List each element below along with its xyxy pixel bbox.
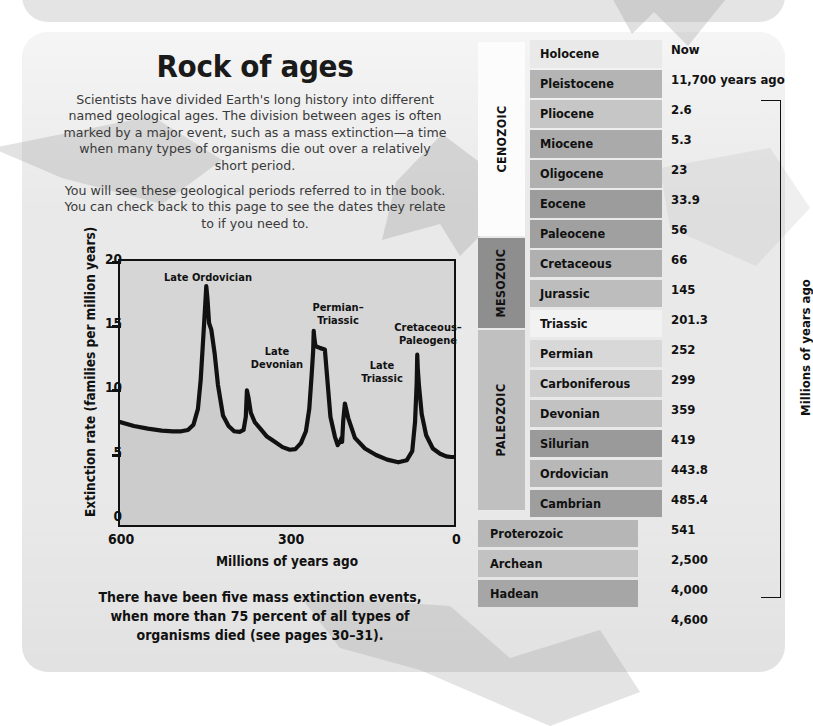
period-row-pliocene[interactable]: Pliocene (530, 100, 662, 128)
period-row-holocene[interactable]: Holocene (530, 40, 662, 68)
geologic-time-scale: CENOZOICMESOZOICPALEOZOIC HolocenePleist… (478, 40, 778, 640)
chart-ytick-mark-10 (112, 389, 121, 392)
period-label: Proterozoic (490, 526, 563, 541)
chart-ytick-0: 0 (82, 508, 122, 524)
chart-annotation-late-triassic: Late Triassic (346, 359, 418, 385)
era-label: CENOZOIC (495, 105, 509, 172)
chart-curve (120, 261, 454, 525)
period-row-pleistocene[interactable]: Pleistocene (530, 70, 662, 98)
chart-plot-area (118, 259, 456, 527)
chart-caption: There have been five mass extinction eve… (80, 588, 440, 645)
period-label: Holocene (540, 46, 599, 61)
chart-xtick-0: 0 (452, 531, 461, 547)
boundary-date: 252 (671, 342, 695, 357)
period-row-proterozoic[interactable]: Proterozoic (478, 520, 638, 548)
chart-xtick-300: 300 (278, 531, 304, 547)
period-label: Silurian (540, 436, 589, 451)
chart-x-axis-title: Millions of years ago (118, 553, 456, 569)
period-row-triassic[interactable]: Triassic (530, 310, 662, 338)
period-label: Miocene (540, 136, 593, 151)
boundary-date: 2,500 (671, 552, 708, 567)
time-bracket (761, 100, 781, 598)
boundary-date: 4,000 (671, 582, 708, 597)
chart-annotation-permian-triassic: Permian– Triassic (294, 301, 382, 327)
page-title: Rock of ages (40, 48, 470, 84)
period-label: Cretaceous (540, 256, 612, 271)
period-row-cretaceous[interactable]: Cretaceous (530, 250, 662, 278)
boundary-date: 443.8 (671, 462, 708, 477)
chart-ytick-5: 5 (82, 444, 122, 460)
period-row-devonian[interactable]: Devonian (530, 400, 662, 428)
boundary-date: 145 (671, 282, 695, 297)
era-label: PALEOZOIC (495, 384, 509, 457)
period-row-miocene[interactable]: Miocene (530, 130, 662, 158)
period-row-permian[interactable]: Permian (530, 340, 662, 368)
period-rows: HolocenePleistocenePlioceneMioceneOligoc… (530, 40, 662, 610)
period-row-hadean[interactable]: Hadean (478, 580, 638, 608)
boundary-date: 359 (671, 402, 695, 417)
intro-paragraph-1: Scientists have divided Earth's long his… (62, 92, 448, 174)
chart-annotation-cretaceous-paleogene: Cretaceous– Paleogene (382, 321, 474, 347)
chart-ytick-mark-20 (112, 261, 121, 264)
boundary-date: 11,700 years ago (671, 72, 785, 87)
era-block-cenozoic[interactable]: CENOZOIC (478, 42, 525, 236)
period-row-eocene[interactable]: Eocene (530, 190, 662, 218)
period-label: Pleistocene (540, 76, 614, 91)
period-row-cambrian[interactable]: Cambrian (530, 490, 662, 518)
period-label: Triassic (540, 316, 588, 331)
period-label: Devonian (540, 406, 600, 421)
era-block-mesozoic[interactable]: MESOZOIC (478, 238, 525, 328)
era-block-paleozoic[interactable]: PALEOZOIC (478, 330, 525, 510)
boundary-date: Now (671, 42, 700, 57)
period-label: Cambrian (540, 496, 601, 511)
card-above (22, 0, 785, 22)
boundary-date: 23 (671, 162, 687, 177)
boundary-date: 56 (671, 222, 687, 237)
period-label: Ordovician (540, 466, 609, 481)
intro-paragraph-2: You will see these geological periods re… (62, 183, 448, 232)
boundary-date: 66 (671, 252, 687, 267)
period-row-paleocene[interactable]: Paleocene (530, 220, 662, 248)
period-label: Eocene (540, 196, 586, 211)
period-row-jurassic[interactable]: Jurassic (530, 280, 662, 308)
period-row-carboniferous[interactable]: Carboniferous (530, 370, 662, 398)
period-label: Permian (540, 346, 593, 361)
boundary-date: 2.6 (671, 102, 692, 117)
boundary-date: 299 (671, 372, 695, 387)
period-label: Paleocene (540, 226, 605, 241)
period-row-ordovician[interactable]: Ordovician (530, 460, 662, 488)
era-label: MESOZOIC (495, 249, 509, 318)
chart-ytick-15: 15 (82, 315, 122, 331)
boundary-date: 4,600 (671, 612, 708, 627)
chart-ytick-10: 10 (82, 379, 122, 395)
chart-ytick-20: 20 (82, 251, 122, 267)
article-column: Rock of ages Scientists have divided Ear… (40, 40, 470, 670)
period-label: Jurassic (540, 286, 590, 301)
period-label: Archean (490, 556, 543, 571)
boundary-date: 485.4 (671, 492, 708, 507)
boundary-date: 419 (671, 432, 695, 447)
extinction-rate-chart: Extinction rate (families per million ye… (56, 255, 466, 555)
period-row-oligocene[interactable]: Oligocene (530, 160, 662, 188)
chart-ytick-mark-5 (112, 454, 121, 457)
boundary-date: 541 (671, 522, 695, 537)
period-row-archean[interactable]: Archean (478, 550, 638, 578)
chart-ytick-mark-15 (112, 325, 121, 328)
period-label: Pliocene (540, 106, 594, 121)
period-label: Hadean (490, 586, 539, 601)
period-row-silurian[interactable]: Silurian (530, 430, 662, 458)
boundary-date: 33.9 (671, 192, 700, 207)
boundary-date: 5.3 (671, 132, 692, 147)
period-label: Oligocene (540, 166, 603, 181)
chart-annotation-late-ordovician: Late Ordovician (148, 271, 268, 284)
chart-xtick-600: 600 (108, 531, 134, 547)
chart-annotation-late-devonian: Late Devonian (234, 345, 320, 371)
bracket-axis-label: Millions of years ago (798, 279, 813, 416)
period-label: Carboniferous (540, 376, 630, 391)
boundary-date: 201.3 (671, 312, 708, 327)
